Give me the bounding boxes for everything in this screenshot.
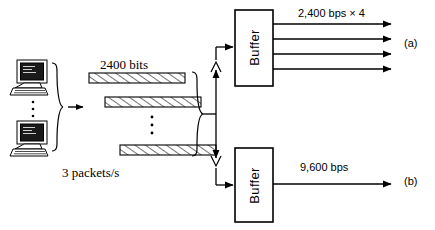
diagram-canvas: 2400 bits 3 packets/s Buffer Buffer 2,40… — [0, 0, 435, 230]
packet-rate-label: 3 packets/s — [62, 166, 119, 179]
terminal-icon-top — [10, 60, 48, 95]
diagram-vector-layer — [0, 0, 435, 230]
packet-group-brace — [192, 72, 203, 156]
output-lines-a — [273, 24, 391, 69]
buffer-a-label: Buffer — [247, 20, 262, 76]
buffer-b-label: Buffer — [247, 158, 262, 214]
terminal-group-brace — [52, 63, 63, 151]
packet-size-label: 2400 bits — [100, 58, 148, 71]
output-rate-label-b: 9,600 bps — [300, 162, 348, 173]
packet-ellipsis-dots — [151, 116, 154, 135]
packet-bar-3 — [120, 145, 216, 155]
split-riser — [203, 47, 233, 185]
packet-bar-1 — [89, 73, 185, 83]
terminal-icon-bottom — [10, 121, 48, 156]
packet-bar-2 — [105, 97, 201, 107]
figure-reference-a: (a) — [404, 38, 417, 49]
terminal-ellipsis-dots — [32, 101, 35, 118]
output-rate-label-a: 2,400 bps × 4 — [298, 8, 365, 19]
figure-reference-b: (b) — [404, 176, 417, 187]
